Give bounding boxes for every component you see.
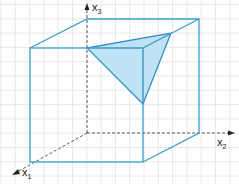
grid xyxy=(0,0,239,184)
top-right-edge xyxy=(143,19,199,48)
x3-arrow-icon xyxy=(85,3,90,10)
x2-arrow-icon xyxy=(228,131,235,136)
x2-label: x2 xyxy=(217,136,226,150)
x1-arrow-icon xyxy=(12,169,20,175)
cube-diagram xyxy=(0,0,239,184)
x1-label: x1 xyxy=(22,166,31,180)
x3-label: x3 xyxy=(92,1,101,15)
